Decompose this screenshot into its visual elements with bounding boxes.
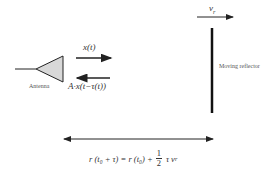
antenna-label: Antenna bbox=[29, 83, 49, 89]
range-equation: r (t₀ + τ) = r (t₀) + 1 2 τ vr bbox=[89, 149, 177, 168]
received-signal-label: A·x(t−τ(t)) bbox=[68, 81, 106, 91]
equation-rhs: τ v bbox=[166, 154, 175, 164]
transmitted-signal-label: x(t) bbox=[83, 42, 96, 52]
reflector-label: Moving reflector bbox=[219, 63, 260, 69]
antenna-icon bbox=[36, 56, 63, 82]
fraction-denominator: 2 bbox=[157, 159, 161, 168]
velocity-subscript: r bbox=[213, 9, 215, 15]
equation-rhs-subscript: r bbox=[175, 156, 177, 162]
equation-lhs: r (t₀ + τ) = r (t₀) + bbox=[89, 154, 153, 164]
equation-fraction: 1 2 bbox=[156, 149, 162, 168]
velocity-label: vr bbox=[209, 3, 215, 15]
